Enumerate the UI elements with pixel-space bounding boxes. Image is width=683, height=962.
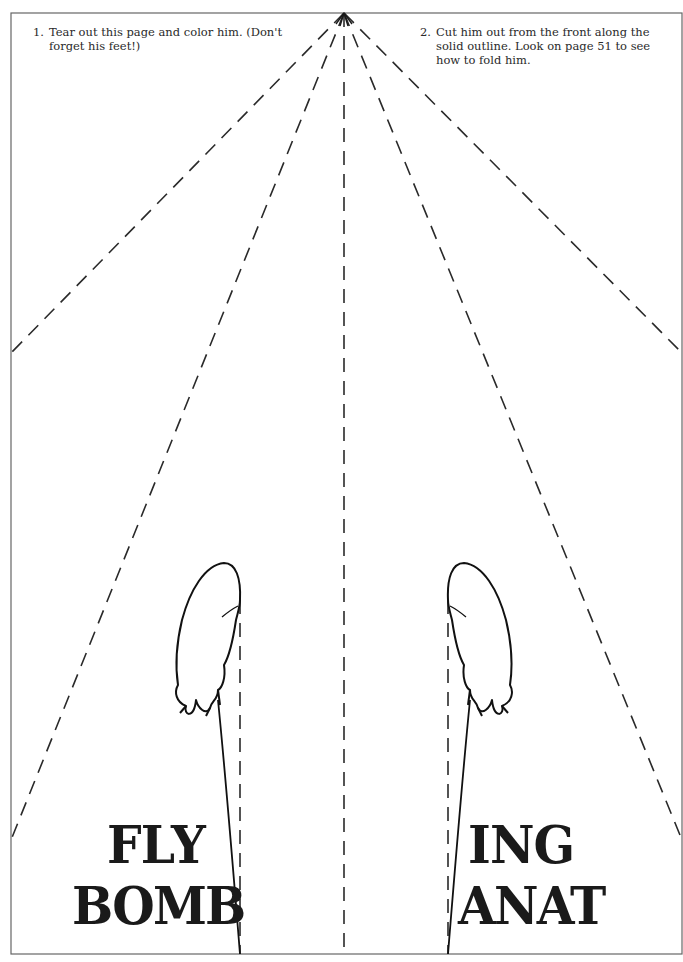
- fold-line-inner-right: [344, 13, 682, 840]
- instruction-2: 2. Cut him out from the front along the …: [420, 25, 660, 67]
- instruction-1: 1. Tear out this page and color him. (Do…: [33, 25, 283, 53]
- instruction-1-number: 1.: [33, 25, 44, 39]
- paper-airplane-template: [0, 0, 683, 962]
- instruction-2-number: 2.: [420, 25, 431, 39]
- fold-line-outer-left: [11, 13, 344, 353]
- left-wing-word-1: FLY: [107, 818, 205, 871]
- right-wing-word-2: ANAT: [458, 879, 604, 932]
- instruction-2-text: Cut him out from the front along the sol…: [436, 25, 660, 67]
- left-wing-word-2: BOMB: [72, 879, 244, 932]
- instruction-1-text: Tear out this page and color him. (Don't…: [49, 25, 283, 53]
- fold-line-inner-left: [11, 13, 344, 840]
- right-wing-word-1: ING: [468, 818, 574, 871]
